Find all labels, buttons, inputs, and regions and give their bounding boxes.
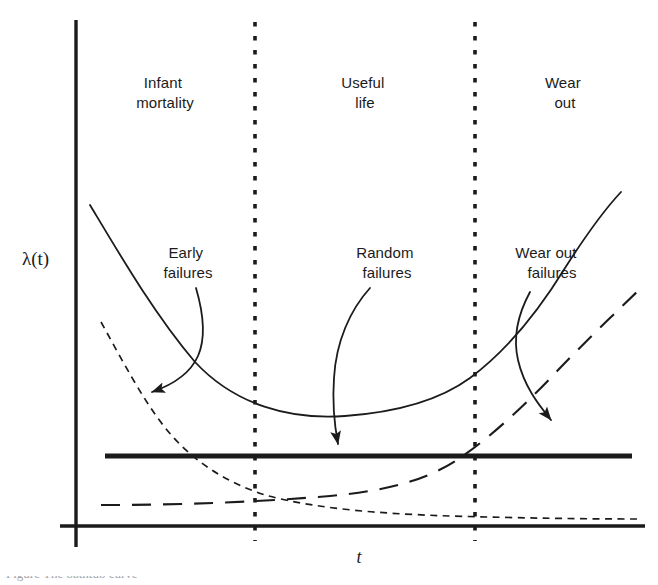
early-failures-curve — [101, 322, 638, 519]
region-label-wear-out: Wear out — [545, 74, 585, 111]
annotation-label-wear-out-failures-line1: Wear out — [515, 244, 577, 261]
region-label-useful-life-line1: Useful — [341, 74, 384, 91]
region-label-infant-mortality-line1: Infant — [144, 74, 183, 91]
annotation-label-early-failures: Early failures — [163, 244, 212, 281]
region-label-useful-life: Useful life — [341, 74, 388, 111]
region-label-wear-out-line2: out — [554, 94, 576, 111]
bathtub-curve-figure: Infant mortality Useful life Wear out Ea… — [0, 0, 658, 585]
annotation-label-early-failures-line1: Early — [169, 244, 204, 261]
x-axis-label: t — [356, 547, 362, 567]
clipped-caption-strip: Figure The bathtub curve — [0, 576, 658, 585]
annotation-label-random-failures: Random failures — [356, 244, 418, 281]
region-label-infant-mortality: Infant mortality — [136, 74, 194, 111]
region-label-infant-mortality-line2: mortality — [136, 94, 194, 111]
clipped-caption-text: Figure The bathtub curve — [6, 576, 138, 582]
random-failures-leader-arrow — [333, 288, 370, 444]
annotation-label-random-failures-line2: failures — [362, 264, 411, 281]
region-label-useful-life-line2: life — [355, 94, 375, 111]
annotation-label-wear-out-failures-line2: failures — [527, 264, 576, 281]
region-labels-group: Infant mortality Useful life Wear out — [136, 74, 585, 111]
annotation-label-wear-out-failures: Wear out failures — [515, 244, 581, 281]
region-label-wear-out-line1: Wear — [545, 74, 581, 91]
y-axis-label: λ(t) — [22, 248, 49, 270]
bathtub-curve-diagram: Infant mortality Useful life Wear out Ea… — [0, 0, 658, 585]
wear-out-failures-curve — [101, 288, 641, 505]
annotation-label-random-failures-line1: Random — [356, 244, 413, 261]
curve-annotation-labels-group: Early failures Random failures Wear out … — [163, 244, 580, 281]
annotation-label-early-failures-line2: failures — [163, 264, 212, 281]
wear-out-failures-leader-arrow — [516, 292, 551, 420]
bathtub-total-curve — [90, 192, 621, 417]
